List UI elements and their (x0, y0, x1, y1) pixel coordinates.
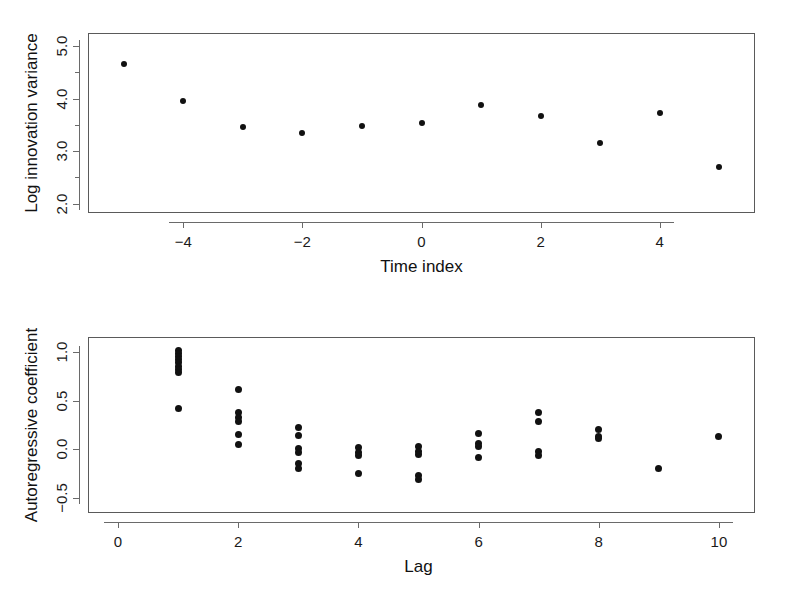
panel-autoregressive-coefficient: 0246810−0.50.00.51.0 Lag Autoregressive … (0, 302, 795, 604)
x-axis-tick-label: 2 (536, 234, 544, 249)
x-axis-tick (541, 222, 542, 228)
data-point (295, 449, 302, 456)
panel-log-innovation-variance: −4−20242.03.04.05.0 Time index Log innov… (0, 0, 795, 302)
y-axis-tick (73, 46, 80, 47)
x-axis-tick-label: 0 (114, 534, 122, 549)
x-axis-tick-label: 2 (234, 534, 242, 549)
data-point (235, 441, 242, 448)
x-axis-tick (479, 522, 480, 528)
x-axis-tick (183, 222, 184, 228)
x-axis-title-top: Time index (380, 258, 463, 275)
y-axis-tick-label: 2.0 (54, 193, 69, 214)
plot-area-bottom (88, 337, 755, 513)
y-axis-title-top: Log innovation variance (23, 33, 40, 213)
data-point (538, 113, 544, 119)
y-axis-tick-label: 0.5 (54, 390, 69, 411)
data-point (535, 418, 542, 425)
data-point (657, 110, 663, 116)
x-axis-tick-label: 0 (417, 234, 425, 249)
y-axis-tick-label: 4.0 (54, 88, 69, 109)
data-point (419, 120, 425, 126)
y-axis-minor-tick (75, 125, 80, 126)
y-axis-tick (73, 99, 80, 100)
y-axis-tick-label: 0.0 (54, 439, 69, 460)
data-point (235, 386, 242, 393)
x-axis-tick (118, 522, 119, 528)
y-axis-minor-tick (75, 177, 80, 178)
figure-scatter-panels: −4−20242.03.04.05.0 Time index Log innov… (0, 0, 795, 604)
data-point (359, 123, 365, 129)
x-axis-line (104, 522, 733, 523)
x-axis-tick-label: 4 (354, 534, 362, 549)
y-axis-tick-label: −0.5 (54, 483, 69, 513)
data-point (175, 405, 182, 412)
data-point (295, 432, 302, 439)
data-point (175, 369, 182, 376)
x-axis-tick (660, 222, 661, 228)
x-axis-tick (719, 522, 720, 528)
y-axis-tick (73, 401, 80, 402)
data-point (415, 476, 422, 483)
y-axis-tick (73, 498, 80, 499)
y-axis-tick (73, 449, 80, 450)
x-axis-title-bottom: Lag (404, 558, 432, 575)
x-axis-tick-label: −4 (175, 234, 192, 249)
data-point (235, 418, 242, 425)
y-axis-tick-label: 5.0 (54, 36, 69, 57)
y-axis-tick (73, 151, 80, 152)
y-axis-title-bottom: Autoregressive coefficient (23, 328, 40, 522)
x-axis-tick-label: 10 (711, 534, 728, 549)
x-axis-tick-label: 8 (595, 534, 603, 549)
data-point (355, 470, 362, 477)
data-point (475, 443, 482, 450)
data-point (478, 102, 484, 108)
x-axis-tick-label: 4 (656, 234, 664, 249)
x-axis-tick (358, 522, 359, 528)
y-axis-tick (73, 352, 80, 353)
x-axis-tick-label: −2 (294, 234, 311, 249)
x-axis-tick (599, 522, 600, 528)
data-point (295, 465, 302, 472)
y-axis-tick (73, 204, 80, 205)
x-axis-tick (422, 222, 423, 228)
x-axis-tick (302, 222, 303, 228)
data-point (235, 431, 242, 438)
y-axis-tick-label: 3.0 (54, 141, 69, 162)
x-axis-tick (238, 522, 239, 528)
y-axis-tick-label: 1.0 (54, 342, 69, 363)
y-axis-minor-tick (75, 72, 80, 73)
y-axis-line (79, 346, 80, 503)
x-axis-tick-label: 6 (474, 534, 482, 549)
